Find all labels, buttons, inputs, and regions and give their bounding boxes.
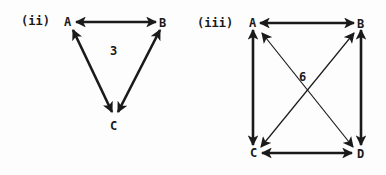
diagram-ii-weight: 3 xyxy=(110,45,117,57)
node-iii-c: C xyxy=(250,147,257,159)
diagram-canvas: (ii) A B C 3 (iii) A B C D 6 xyxy=(0,0,386,175)
edge-ii-b-c xyxy=(118,30,160,112)
edge-ii-a-c xyxy=(73,30,112,112)
diagram-iii-edges xyxy=(253,23,361,153)
node-iii-a: A xyxy=(249,17,256,29)
node-ii-c: C xyxy=(110,120,117,132)
diagram-iii-label: (iii) xyxy=(197,17,233,29)
edges-layer xyxy=(0,0,386,175)
node-ii-a: A xyxy=(64,16,71,28)
node-iii-b: B xyxy=(357,18,364,30)
diagram-ii-edges xyxy=(73,22,160,112)
node-ii-b: B xyxy=(159,17,166,29)
node-iii-d: D xyxy=(357,148,364,160)
diagram-ii-label: (ii) xyxy=(21,15,50,27)
diagram-iii-weight: 6 xyxy=(299,71,306,83)
